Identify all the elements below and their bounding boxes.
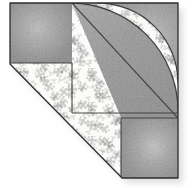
- patch-top-left-solid: [10, 3, 72, 63]
- quilt-block-canvas: [0, 0, 194, 188]
- patch-bottom-right-solid: [121, 118, 178, 178]
- quilt-block-image: Quilt block patch: [0, 0, 194, 188]
